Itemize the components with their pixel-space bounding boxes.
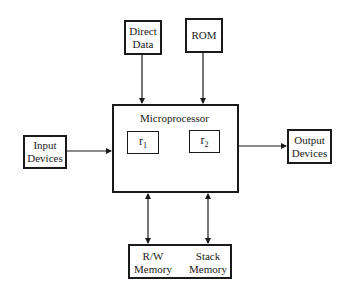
memory-box: R/W Memory Stack Memory [128, 244, 232, 279]
input-devices-label-line2: Devices [27, 152, 62, 165]
direct-data-box: Direct Data [124, 20, 162, 55]
rw-memory-label-line1: R/W [130, 250, 176, 263]
r2-label: r2 [201, 133, 209, 149]
stack-memory-cell: Stack Memory [184, 250, 232, 276]
direct-data-label-line2: Data [133, 38, 154, 51]
output-devices-label-line2: Devices [292, 147, 327, 160]
input-devices-label-line1: Input [33, 139, 56, 152]
register-r2: r2 [189, 130, 220, 153]
register-r1: r1 [127, 131, 159, 154]
rom-label: ROM [191, 29, 216, 42]
r1-label: r1 [139, 134, 147, 150]
rom-box: ROM [185, 18, 223, 53]
rw-memory-cell: R/W Memory [130, 250, 176, 276]
stack-memory-label-line1: Stack [184, 250, 232, 263]
rw-memory-label-line2: Memory [130, 263, 176, 276]
output-devices-label-line1: Output [294, 134, 325, 147]
stack-memory-label-line2: Memory [184, 263, 232, 276]
microprocessor-title: Microprocessor [140, 112, 209, 124]
output-devices-box: Output Devices [287, 129, 332, 164]
direct-data-label-line1: Direct [129, 25, 156, 38]
input-devices-box: Input Devices [23, 135, 67, 169]
